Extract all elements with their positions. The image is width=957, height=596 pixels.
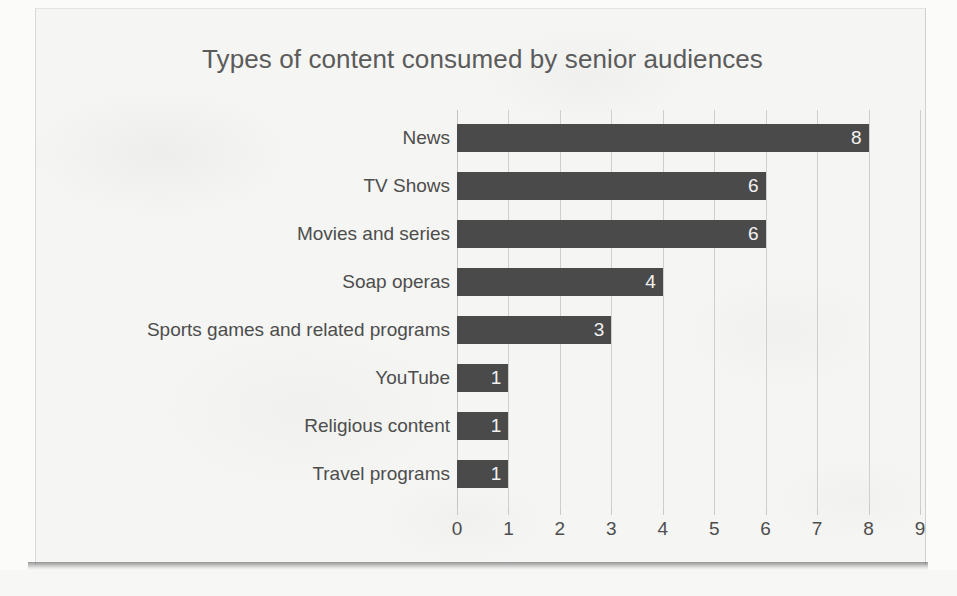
bar-row: Soap operas4	[0, 268, 957, 316]
bar-value-label: 3	[594, 316, 605, 344]
bar-row: TV Shows6	[0, 172, 957, 220]
bar[interactable]: 1	[457, 364, 508, 392]
x-tick-label: 7	[797, 518, 837, 540]
x-tick-label: 9	[900, 518, 940, 540]
x-tick-label: 0	[437, 518, 477, 540]
category-label: Travel programs	[312, 460, 450, 488]
category-label: Soap operas	[342, 268, 450, 296]
tick-mark-8	[869, 508, 870, 515]
category-label: Sports games and related programs	[147, 316, 450, 344]
x-tick-label: 1	[488, 518, 528, 540]
bar-value-label: 1	[491, 412, 502, 440]
bar[interactable]: 4	[457, 268, 663, 296]
bar-row: News8	[0, 124, 957, 172]
bar[interactable]: 1	[457, 460, 508, 488]
bar[interactable]: 8	[457, 124, 869, 152]
bar-value-label: 6	[748, 172, 759, 200]
bar-value-label: 4	[645, 268, 656, 296]
bar-row: Religious content1	[0, 412, 957, 460]
bar-value-label: 1	[491, 364, 502, 392]
bar[interactable]: 3	[457, 316, 611, 344]
bar[interactable]: 1	[457, 412, 508, 440]
category-label: Movies and series	[297, 220, 450, 248]
x-tick-label: 2	[540, 518, 580, 540]
category-label: YouTube	[375, 364, 450, 392]
tick-mark-5	[714, 508, 715, 515]
bar[interactable]: 6	[457, 220, 766, 248]
tick-mark-9	[920, 508, 921, 515]
x-axis-tick-labels: 0123456789	[457, 518, 920, 544]
category-label: Religious content	[304, 412, 450, 440]
scanned-page: Types of content consumed by senior audi…	[0, 0, 957, 596]
bar-row: Travel programs1	[0, 460, 957, 508]
tick-mark-1	[508, 508, 509, 515]
tick-mark-0	[457, 508, 458, 515]
bar-rows: News8TV Shows6Movies and series6Soap ope…	[0, 110, 957, 508]
category-label: TV Shows	[363, 172, 450, 200]
bar-value-label: 1	[491, 460, 502, 488]
tick-mark-7	[817, 508, 818, 515]
tick-mark-4	[663, 508, 664, 515]
bar[interactable]: 6	[457, 172, 766, 200]
x-tick-label: 8	[849, 518, 889, 540]
x-tick-label: 6	[746, 518, 786, 540]
bar-value-label: 8	[851, 124, 862, 152]
bar-chart-plot: News8TV Shows6Movies and series6Soap ope…	[0, 0, 957, 596]
bar-row: YouTube1	[0, 364, 957, 412]
bar-row: Sports games and related programs3	[0, 316, 957, 364]
bar-value-label: 6	[748, 220, 759, 248]
x-tick-label: 5	[694, 518, 734, 540]
category-label: News	[402, 124, 450, 152]
bar-row: Movies and series6	[0, 220, 957, 268]
x-tick-label: 4	[643, 518, 683, 540]
x-tick-label: 3	[591, 518, 631, 540]
tick-mark-6	[766, 508, 767, 515]
tick-mark-2	[560, 508, 561, 515]
tick-mark-3	[611, 508, 612, 515]
x-axis-ticks	[457, 508, 920, 515]
